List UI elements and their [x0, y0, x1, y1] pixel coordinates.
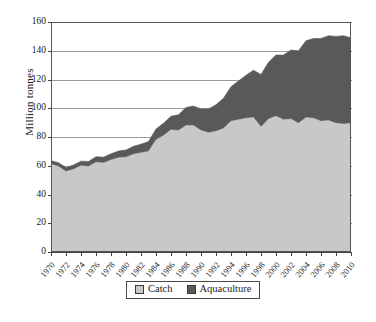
y-tick-label: 60	[6, 161, 46, 171]
x-tick-mark	[201, 252, 202, 256]
x-tick-mark	[351, 252, 352, 256]
legend-swatch-catch	[135, 285, 144, 294]
x-tick-mark	[246, 252, 247, 256]
area-catch	[51, 116, 351, 252]
legend-item-aquaculture: Aquaculture	[187, 284, 252, 295]
y-tick-label: 140	[6, 46, 46, 56]
x-tick-mark	[171, 252, 172, 256]
legend-label-aquaculture: Aquaculture	[200, 284, 252, 295]
x-tick-mark	[141, 252, 142, 256]
y-tick-label: 20	[6, 218, 46, 228]
x-tick-mark	[231, 252, 232, 256]
x-tick-mark	[276, 252, 277, 256]
x-tick-mark	[261, 252, 262, 256]
stacked-area-series	[51, 22, 351, 252]
x-tick-mark	[291, 252, 292, 256]
y-tick-label: 100	[6, 103, 46, 113]
x-tick-mark	[216, 252, 217, 256]
legend-swatch-aquaculture	[187, 285, 196, 294]
x-tick-mark	[66, 252, 67, 256]
x-tick-mark	[186, 252, 187, 256]
legend-label-catch: Catch	[148, 284, 173, 295]
legend-item-catch: Catch	[135, 284, 173, 295]
x-tick-mark	[336, 252, 337, 256]
x-tick-mark	[96, 252, 97, 256]
chart-legend: Catch Aquaculture	[126, 281, 260, 299]
y-tick-label: 160	[6, 17, 46, 27]
x-tick-mark	[51, 252, 52, 256]
x-tick-mark	[306, 252, 307, 256]
x-tick-mark	[111, 252, 112, 256]
x-tick-mark	[81, 252, 82, 256]
fisheries-stacked-area-chart: Million tonnes 020406080100120140160 197…	[0, 0, 376, 322]
x-tick-mark	[126, 252, 127, 256]
y-tick-label: 120	[6, 75, 46, 85]
y-tick-label: 0	[6, 247, 46, 257]
y-tick-label: 80	[6, 132, 46, 142]
x-tick-mark	[156, 252, 157, 256]
x-tick-mark	[321, 252, 322, 256]
y-tick-label: 40	[6, 190, 46, 200]
